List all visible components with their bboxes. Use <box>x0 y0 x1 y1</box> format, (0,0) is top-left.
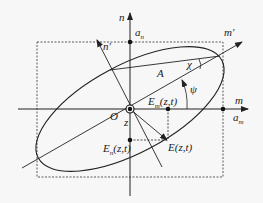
an-label: an <box>135 27 144 41</box>
am-label: am <box>233 112 244 126</box>
m-axis-label: m <box>235 95 243 106</box>
am-label-sub: m <box>239 118 244 126</box>
n-axis-label: n <box>119 12 125 23</box>
m-prime-label: m' <box>224 27 234 38</box>
E-label: E(z,t) <box>168 142 192 153</box>
Em-label-arg: (z,t) <box>160 95 177 107</box>
n-prime-label: n' <box>103 41 111 52</box>
psi-arc <box>182 80 187 109</box>
En-label: En(z,t) <box>103 143 131 157</box>
psi-label: ψ <box>190 84 197 95</box>
origin-z-marker-inner <box>128 107 132 111</box>
am-point <box>221 107 226 112</box>
chord-A <box>110 56 220 70</box>
E-vector <box>130 109 167 140</box>
Em-label-main: E <box>148 95 155 107</box>
En-label-arg: (z,t) <box>113 142 130 154</box>
chi-label: χ <box>187 59 192 70</box>
Em-label: Em(z,t) <box>148 96 177 110</box>
A-label: A <box>157 68 164 79</box>
polarization-ellipse-diagram: n an m' n' A χ ψ m am Em(z,t) O z En(z,t… <box>0 0 263 203</box>
origin-label: O <box>110 111 118 122</box>
an-point <box>128 40 133 45</box>
chi-arc <box>199 59 201 69</box>
z-label: z <box>124 117 128 128</box>
an-label-sub: n <box>141 33 145 41</box>
En-label-main: E <box>103 142 110 154</box>
